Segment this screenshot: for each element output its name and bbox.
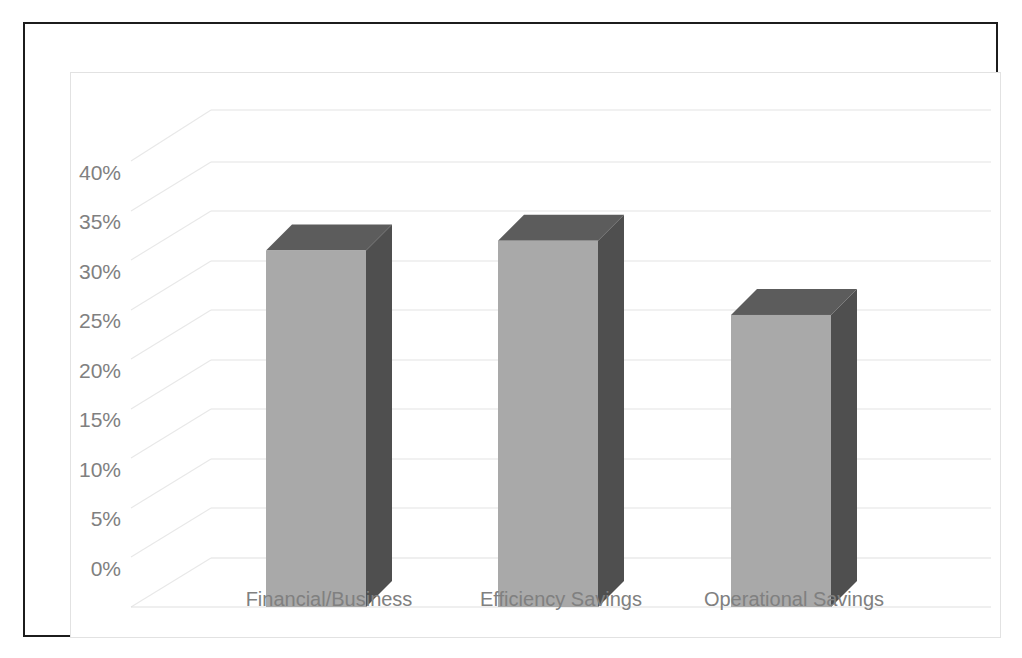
gridline-depth-15 [131,409,211,458]
bar-side-face-1 [366,225,392,607]
bar-front-face-2 [498,241,598,607]
gridline-depth-5 [131,508,211,557]
gridline-depth-20 [131,360,211,409]
y-tick-label-10: 10% [79,458,121,481]
y-tick-label-25: 25% [79,309,121,332]
gridline-depth-0 [131,558,211,607]
y-tick-label-0: 0% [91,557,121,580]
gridline-depth-10 [131,459,211,508]
bar-side-face-3 [831,289,857,607]
gridline-depth-35 [131,211,211,260]
chart-outer-border: 40% 35% 30% 25% 20% 15% 10% 5% 0% Financ… [23,22,998,637]
column-chart-3d[interactable]: 40% 35% 30% 25% 20% 15% 10% 5% 0% Financ… [71,73,1001,638]
screenshot-root: 40% 35% 30% 25% 20% 15% 10% 5% 0% Financ… [0,0,1022,658]
chart-plot-area[interactable]: 40% 35% 30% 25% 20% 15% 10% 5% 0% Financ… [70,72,1001,638]
y-tick-label-5: 5% [91,507,121,530]
bar-financial-business[interactable] [266,225,392,607]
y-tick-label-20: 20% [79,359,121,382]
y-tick-label-40: 40% [79,161,121,184]
x-category-label-0: Financial/Business [246,588,413,610]
x-category-label-1: Efficiency Savings [480,588,642,610]
gridline-depth-45 [131,110,211,161]
y-axis-tick-labels: 40% 35% 30% 25% 20% 15% 10% 5% 0% [79,161,121,580]
bar-front-face-3 [731,315,831,607]
x-axis-category-labels: Financial/Business Efficiency Savings Op… [246,588,884,610]
bar-side-face-2 [598,215,624,607]
y-tick-label-30: 30% [79,260,121,283]
gridline-depth-40 [131,162,211,211]
bar-operational-savings[interactable] [731,289,857,607]
y-tick-label-35: 35% [79,210,121,233]
gridline-depth-25 [131,310,211,359]
y-tick-label-15: 15% [79,408,121,431]
gridline-depth-30 [131,261,211,310]
bar-efficiency-savings[interactable] [498,215,624,607]
bar-front-face-1 [266,251,366,607]
x-category-label-2: Operational Savings [704,588,884,610]
